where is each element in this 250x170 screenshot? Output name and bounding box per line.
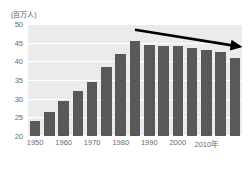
y-axis-tick-label: 30 xyxy=(15,94,23,103)
x-axis-tick-label: 1980 xyxy=(112,138,129,147)
bar xyxy=(130,41,141,136)
bar xyxy=(87,82,98,136)
plot-area xyxy=(28,24,242,136)
bar xyxy=(201,50,212,136)
y-axis-tick-label: 35 xyxy=(15,76,23,85)
bar xyxy=(158,46,169,136)
bar xyxy=(230,58,241,136)
x-axis-tick-label: 2010年 xyxy=(194,138,218,149)
bar xyxy=(58,101,69,136)
x-axis-tick-label: 1950 xyxy=(27,138,44,147)
population-bar-chart: (百万人) 50454035302520 1950196019701980199… xyxy=(0,0,250,170)
y-axis: 50454035302520 xyxy=(0,24,26,136)
bar xyxy=(187,48,198,136)
bar xyxy=(44,112,55,136)
y-axis-tick-label: 45 xyxy=(15,38,23,47)
x-axis-tick-label: 1960 xyxy=(55,138,72,147)
bar xyxy=(30,121,41,136)
y-axis-tick-label: 25 xyxy=(15,113,23,122)
x-axis-tick-label: 1990 xyxy=(141,138,158,147)
x-axis-tick-label: 1970 xyxy=(84,138,101,147)
x-axis: 1950196019701980199020002010年 xyxy=(28,138,242,152)
bar xyxy=(101,67,112,136)
bar xyxy=(173,46,184,136)
bar xyxy=(215,52,226,136)
y-axis-tick-label: 20 xyxy=(15,132,23,141)
x-axis-tick-label: 2000 xyxy=(169,138,186,147)
bar xyxy=(115,54,126,136)
bar-series xyxy=(28,24,242,136)
y-axis-tick-label: 40 xyxy=(15,57,23,66)
y-axis-unit-label: (百万人) xyxy=(11,9,37,19)
y-axis-tick-label: 50 xyxy=(15,20,23,29)
bar xyxy=(144,45,155,136)
bar xyxy=(73,91,84,136)
